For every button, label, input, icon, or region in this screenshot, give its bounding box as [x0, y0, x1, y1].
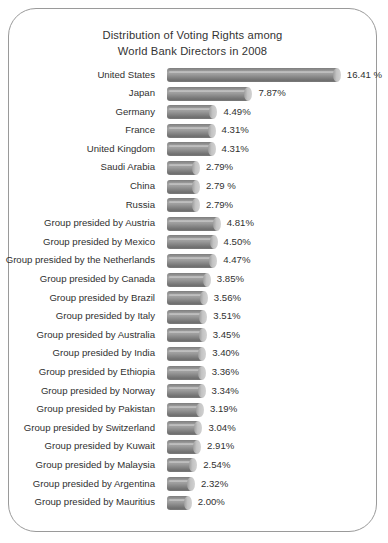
bar-category-label: Japan: [129, 87, 155, 99]
bar-graphic: [167, 198, 196, 212]
bar-value-label: 4.49%: [223, 106, 250, 118]
bar-row: Group presided by Argentina2.32%: [9, 475, 376, 494]
bar-cylinder: [167, 440, 197, 454]
bar-category-label: Group presided by Norway: [41, 385, 155, 397]
bar-value-label: 16.41 %: [347, 69, 382, 81]
bar-cylinder: [167, 180, 196, 194]
bar-value-label: 4.50%: [224, 236, 251, 248]
bar-category-label: China: [130, 180, 155, 192]
bar-category-label: Group presided by Kuwait: [45, 440, 155, 452]
chart-title-line-1: Distribution of Voting Rights among: [9, 27, 376, 43]
bar-cylinder: [167, 458, 193, 472]
bar-cylinder: [167, 403, 200, 417]
bar-cylinder: [167, 235, 214, 249]
bar-row: United Kingdom4.31%: [9, 140, 376, 159]
bar-cylinder: [167, 198, 196, 212]
bar-value-label: 3.36%: [212, 366, 239, 378]
bar-row: Saudi Arabia2.79%: [9, 159, 376, 178]
bar-graphic: [167, 477, 191, 491]
bar-graphic: [167, 254, 213, 268]
bar-graphic: [167, 440, 197, 454]
bar-graphic: [167, 347, 202, 361]
bar-value-label: 4.31%: [222, 124, 249, 136]
bar-value-label: 4.47%: [223, 254, 250, 266]
bar-row: Group presided by Norway3.34%: [9, 382, 376, 401]
bar-category-label: Group presided by Australia: [37, 329, 155, 341]
bar-graphic: [167, 403, 200, 417]
chart-title-line-2: World Bank Directors in 2008: [9, 43, 376, 59]
bar-value-label: 2.79%: [206, 161, 233, 173]
bar-category-label: France: [125, 124, 155, 136]
bar-category-label: Group presided by Austria: [44, 217, 155, 229]
bar-graphic: [167, 328, 203, 342]
bar-value-label: 3.34%: [212, 385, 239, 397]
bar-graphic: [167, 161, 196, 175]
bar-value-label: 3.04%: [208, 422, 235, 434]
bar-value-label: 3.51%: [213, 310, 240, 322]
bar-cylinder: [167, 105, 213, 119]
bar-value-label: 2.79 %: [206, 180, 236, 192]
bar-cylinder: [167, 142, 212, 156]
bar-value-label: 3.45%: [213, 329, 240, 341]
bar-row: Russia2.79%: [9, 196, 376, 215]
bar-row: Germany4.49%: [9, 103, 376, 122]
bar-cylinder: [167, 328, 203, 342]
bar-category-label: Group presided by Pakistan: [37, 403, 155, 415]
bar-row: France4.31%: [9, 122, 376, 141]
bar-category-label: Group presided by Italy: [56, 310, 155, 322]
bar-graphic: [167, 124, 212, 138]
bar-category-label: Group presided by Canada: [40, 273, 155, 285]
bar-category-label: Saudi Arabia: [101, 161, 155, 173]
bar-graphic: [167, 310, 203, 324]
bar-graphic: [167, 458, 193, 472]
bar-cylinder: [167, 310, 203, 324]
bar-cylinder: [167, 87, 248, 101]
bar-row: Group presided by Pakistan3.19%: [9, 401, 376, 420]
bar-graphic: [167, 421, 198, 435]
bar-category-label: Germany: [116, 106, 155, 118]
bar-row: Group presided by Canada3.85%: [9, 271, 376, 290]
bar-graphic: [167, 105, 213, 119]
chart-title: Distribution of Voting Rights among Worl…: [9, 27, 376, 59]
bar-row: Group presided by Brazil3.56%: [9, 289, 376, 308]
bar-cylinder: [167, 366, 202, 380]
bar-category-label: United Kingdom: [87, 143, 155, 155]
bar-row: Group presided by Mauritius2.00%: [9, 494, 376, 513]
bar-category-label: Group presided by Mauritius: [34, 496, 155, 508]
bar-category-label: Group presided by Ethiopia: [39, 366, 155, 378]
bar-cylinder: [167, 496, 188, 510]
bar-cylinder: [167, 161, 196, 175]
bar-row: Group presided by Switzerland3.04%: [9, 419, 376, 438]
bar-category-label: Group presided by Switzerland: [24, 422, 155, 434]
bar-category-label: Group presided by India: [53, 347, 155, 359]
bar-row: Group presided by Australia3.45%: [9, 326, 376, 345]
bar-graphic: [167, 68, 337, 82]
bar-row: Group presided by Mexico4.50%: [9, 233, 376, 252]
bar-category-label: Group presided by the Netherlands: [6, 254, 155, 266]
bar-category-label: Group presided by Mexico: [43, 236, 155, 248]
bar-row: Japan7.87%: [9, 85, 376, 104]
bar-graphic: [167, 217, 217, 231]
bar-value-label: 2.54%: [203, 459, 230, 471]
bar-graphic: [167, 87, 248, 101]
bar-graphic: [167, 291, 204, 305]
bar-row: Group presided by Austria4.81%: [9, 215, 376, 234]
bar-value-label: 2.91%: [207, 440, 234, 452]
bar-graphic: [167, 384, 202, 398]
bar-graphic: [167, 366, 202, 380]
bar-cylinder: [167, 347, 202, 361]
bar-cylinder: [167, 421, 198, 435]
bar-value-label: 2.32%: [201, 478, 228, 490]
bar-category-label: Group presided by Malaysia: [36, 459, 155, 471]
bar-value-label: 3.85%: [217, 273, 244, 285]
bar-row: Group presided by Kuwait2.91%: [9, 438, 376, 457]
bar-row: Group presided by the Netherlands4.47%: [9, 252, 376, 271]
bar-row: China2.79 %: [9, 178, 376, 197]
bar-graphic: [167, 273, 207, 287]
bar-graphic: [167, 180, 196, 194]
bar-row: Group presided by Malaysia2.54%: [9, 456, 376, 475]
bar-cylinder: [167, 124, 212, 138]
bar-row: Group presided by Italy3.51%: [9, 308, 376, 327]
bar-category-label: Russia: [126, 199, 155, 211]
bar-graphic: [167, 142, 212, 156]
